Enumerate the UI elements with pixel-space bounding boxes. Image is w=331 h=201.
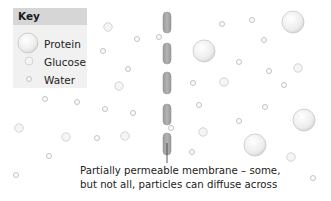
water-particle: [47, 154, 52, 159]
partially-permeable-membrane: [163, 12, 171, 155]
protein-particle: [293, 109, 315, 131]
glucose-particle: [220, 78, 228, 86]
key-label-glucose: Glucose: [44, 56, 86, 68]
water-particle: [135, 37, 140, 42]
water-particle: [237, 119, 242, 124]
membrane-segment: [163, 72, 171, 94]
water-particle: [197, 103, 202, 108]
water-particle: [103, 107, 108, 112]
glucose-particle: [104, 23, 112, 31]
caption-line-1: Partially permeable membrane – some,: [80, 164, 280, 178]
water-particle: [14, 173, 19, 178]
glucose-particle: [199, 128, 207, 136]
water-particle: [267, 69, 272, 74]
water-particle: [237, 60, 242, 65]
protein-particle: [282, 11, 304, 33]
membrane-caption: Partially permeable membrane – some, but…: [80, 164, 280, 192]
water-particle: [126, 67, 131, 72]
water-particle: [75, 100, 80, 105]
key-label-water: Water: [44, 74, 75, 86]
glucose-particle: [15, 124, 23, 132]
glucose-particle: [287, 153, 295, 161]
water-particle: [250, 18, 255, 23]
water-particle: [190, 150, 195, 155]
glucose-particle: [294, 64, 302, 72]
membrane-segment: [163, 43, 171, 64]
water-particle: [101, 49, 106, 54]
water-swatch-icon: [27, 77, 32, 82]
protein-swatch-icon: [18, 33, 38, 53]
water-particle: [311, 176, 316, 181]
water-particle: [169, 126, 174, 131]
water-particle: [282, 83, 287, 88]
protein-particle: [244, 134, 266, 156]
membrane-segment: [163, 104, 171, 125]
membrane-segment: [163, 12, 171, 33]
glucose-particle: [62, 133, 70, 141]
key-legend: Key Protein Glucose Water: [13, 8, 87, 88]
water-particle: [191, 81, 196, 86]
glucose-swatch-icon: [25, 57, 33, 65]
water-particle: [43, 97, 48, 102]
water-particle: [263, 105, 268, 110]
caption-line-2: but not all, particles can diffuse acros…: [80, 178, 280, 192]
key-label-protein: Protein: [44, 38, 81, 50]
water-particle: [95, 136, 100, 141]
protein-particle: [193, 40, 215, 62]
glucose-particle: [115, 82, 123, 90]
water-particle: [131, 111, 136, 116]
glucose-particle: [121, 132, 129, 140]
water-particle: [157, 35, 162, 40]
water-particle: [220, 22, 225, 27]
water-particle: [262, 38, 267, 43]
